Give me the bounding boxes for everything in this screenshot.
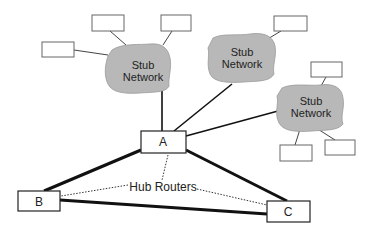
stub-label: Stub — [231, 46, 254, 58]
link-a-stub-middle — [174, 84, 232, 131]
hub-pointer-c — [197, 189, 267, 205]
host-box — [92, 15, 124, 31]
router-c-label: C — [284, 205, 293, 219]
router-b-label: B — [35, 195, 43, 209]
host-box — [161, 15, 191, 31]
link-a-c — [186, 150, 287, 201]
host-link — [74, 50, 108, 55]
hub-routers-label: Hub Routers — [129, 180, 196, 194]
stub-label: Stub — [132, 59, 155, 71]
link-a-stub-right — [186, 111, 278, 136]
hub-pointer-a — [162, 155, 168, 180]
host-box — [325, 140, 355, 155]
stub-label: Network — [123, 71, 164, 83]
link-b-c — [60, 200, 267, 214]
host-box — [311, 62, 342, 77]
stub-label: Stub — [300, 95, 323, 107]
host-link — [163, 31, 172, 45]
hub-pointer-b — [61, 185, 128, 196]
stub-label: Network — [222, 58, 263, 70]
host-box — [280, 145, 312, 161]
stub-label: Network — [291, 107, 332, 119]
host-box — [42, 42, 74, 57]
link-a-b — [44, 150, 141, 191]
network-diagram: Stub Network Stub Network Stub Network A… — [0, 0, 370, 236]
host-box — [274, 16, 307, 31]
router-a-label: A — [159, 135, 167, 149]
host-link — [110, 31, 126, 45]
